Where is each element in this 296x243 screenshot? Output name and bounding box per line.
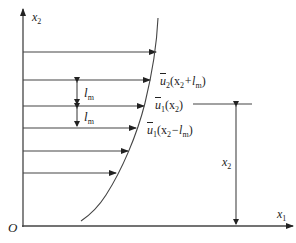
velocity-label-middle: u1(x2) bbox=[155, 99, 183, 114]
mixing-length-diagram: x2 x1 O lm lm u2(x2+lm) u1(x2) u1(x2−lm)… bbox=[0, 0, 296, 243]
velocity-label-upper: u2(x2+lm) bbox=[160, 75, 206, 90]
height-label: x2 bbox=[222, 156, 231, 171]
velocity-label-lower: u1(x2−lm) bbox=[147, 124, 193, 139]
origin-label: O bbox=[8, 221, 17, 234]
mixing-length-label-upper: lm bbox=[84, 86, 94, 102]
mixing-length-label-lower: lm bbox=[84, 110, 94, 126]
y-axis-label: x2 bbox=[32, 11, 41, 26]
diagram-graphics bbox=[0, 0, 296, 243]
x-axis-label: x1 bbox=[277, 208, 286, 223]
